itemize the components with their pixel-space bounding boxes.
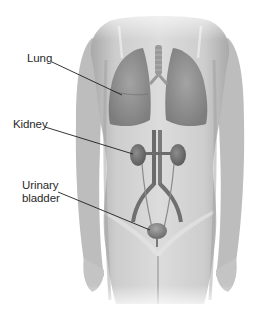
label-kidney: Kidney: [13, 118, 48, 131]
left-kidney: [130, 144, 146, 166]
label-lung: Lung: [27, 52, 52, 65]
anatomy-figure: [0, 0, 256, 312]
right-kidney: [170, 144, 186, 166]
bladder: [147, 223, 167, 239]
label-urinary-bladder: Urinary bladder: [22, 179, 60, 205]
label-urinary-bladder-line2: bladder: [22, 192, 60, 205]
label-urinary-bladder-line1: Urinary: [22, 179, 60, 192]
